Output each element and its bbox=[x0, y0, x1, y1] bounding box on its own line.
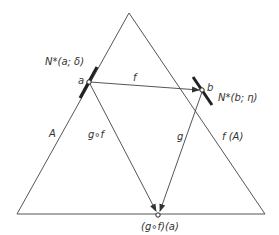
arrow-g bbox=[160, 92, 202, 211]
label-set-fA: f (A) bbox=[222, 131, 243, 142]
label-f: f bbox=[133, 72, 138, 83]
arrow-g-compose-f bbox=[90, 84, 156, 211]
label-g-compose-f: g∘f bbox=[88, 129, 106, 140]
label-neighborhood-a: N*(a; δ) bbox=[45, 56, 84, 67]
label-point-gfa: (g∘f)(a) bbox=[141, 221, 179, 232]
composition-diagram: N*(a; δ) N*(b; η) a b f g g∘f A f (A) (g… bbox=[0, 0, 279, 235]
point-gfa bbox=[156, 213, 160, 217]
right-edge bbox=[129, 13, 265, 214]
label-neighborhood-b: N*(b; η) bbox=[218, 92, 258, 103]
point-b bbox=[200, 88, 204, 92]
outer-triangle bbox=[17, 13, 265, 214]
label-point-b: b bbox=[207, 82, 213, 93]
label-g: g bbox=[177, 131, 183, 142]
label-set-A: A bbox=[48, 128, 56, 139]
label-point-a: a bbox=[78, 75, 84, 86]
point-a bbox=[87, 80, 91, 84]
arrow-f bbox=[90, 82, 199, 90]
left-edge bbox=[17, 13, 129, 214]
